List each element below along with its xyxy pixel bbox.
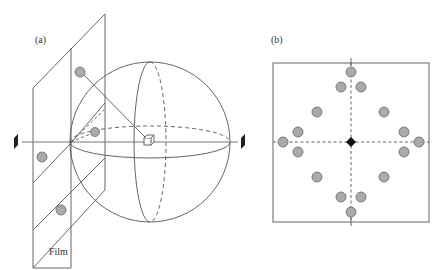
film-spot [336,82,346,92]
marker-left-icon [14,134,18,149]
cube-icon [144,135,154,145]
film-spot [379,107,389,117]
panel-a-label: (a) [35,34,46,46]
film-spot [293,147,303,157]
marker-right-icon [241,134,245,149]
film-spot [399,147,409,157]
film-planes [33,14,105,268]
projection-rays [71,72,146,142]
film-spot [312,172,322,182]
film-spot [346,207,356,217]
film-spot [336,192,346,202]
film-spot [379,172,389,182]
film-spot [356,192,366,202]
film-spot [399,127,409,137]
film-spot [312,107,322,117]
film-spot [346,67,356,77]
film-spot [278,137,288,147]
center-diamond-icon [346,137,356,147]
film-spot [414,137,424,147]
panel-b-label: (b) [271,34,283,46]
film-label: Film [49,246,68,257]
diagram-canvas: (a) [0,0,440,270]
film-spot [293,127,303,137]
film-spot [356,82,366,92]
